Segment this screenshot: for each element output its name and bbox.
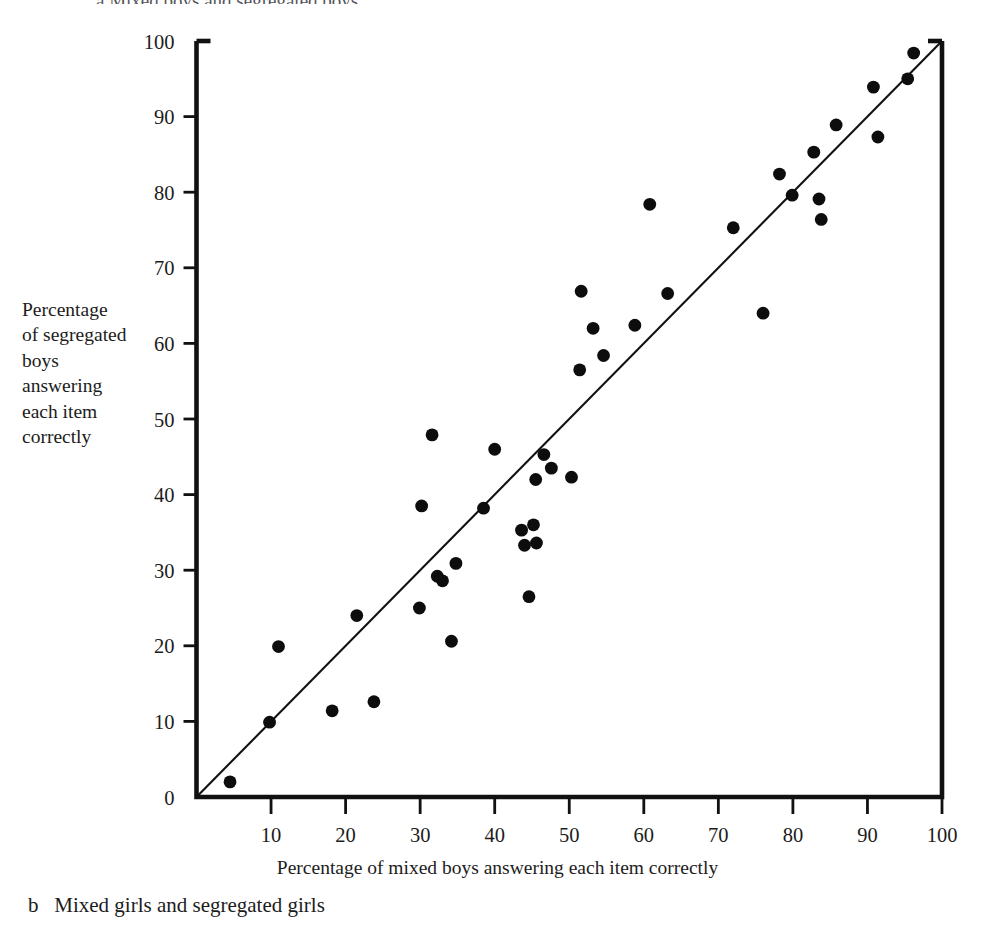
x-tick-label: 80 [783, 824, 804, 846]
y-tick-label: 50 [154, 409, 175, 431]
y-tick-label: 60 [154, 333, 175, 355]
y-tick-label: 0 [164, 787, 174, 809]
y-tick-label: 10 [154, 711, 175, 733]
y-tick-label: 30 [154, 560, 175, 582]
identity-reference-line [197, 41, 943, 797]
data-point [518, 539, 531, 552]
data-point [575, 285, 588, 298]
data-point [807, 146, 820, 159]
reference-line-layer [197, 41, 943, 797]
x-tick-label: 90 [857, 824, 878, 846]
data-point [643, 198, 656, 211]
data-point [477, 502, 490, 515]
data-point [415, 500, 428, 513]
y-tick-label: 100 [144, 31, 175, 53]
x-tick-label: 100 [927, 824, 958, 846]
data-point [773, 168, 786, 181]
data-point [450, 557, 463, 570]
data-point [786, 189, 799, 202]
data-point [413, 602, 426, 615]
data-point [907, 47, 920, 60]
x-tick-label: 40 [484, 824, 505, 846]
data-point [565, 471, 578, 484]
data-point [436, 574, 449, 587]
data-point [445, 635, 458, 648]
data-point [488, 443, 501, 456]
data-point [815, 213, 828, 226]
y-axis-label: Percentage of segregated boys answering … [22, 297, 154, 449]
data-point [727, 221, 740, 234]
data-point [263, 716, 276, 729]
data-point [529, 473, 542, 486]
data-point [527, 518, 540, 531]
data-point [757, 307, 770, 320]
data-point [661, 287, 674, 300]
data-point [813, 193, 826, 206]
data-point [867, 81, 880, 94]
data-point [530, 537, 543, 550]
data-point [545, 462, 558, 475]
x-tick-label: 30 [410, 824, 431, 846]
data-point [426, 428, 439, 441]
data-point [515, 524, 528, 537]
data-point [830, 119, 843, 132]
x-tick-label: 20 [335, 824, 356, 846]
y-tick-label: 90 [154, 106, 175, 128]
data-point [224, 775, 237, 788]
data-point [523, 590, 536, 603]
data-point [871, 131, 884, 144]
data-point [326, 704, 339, 717]
y-tick-label: 20 [154, 635, 175, 657]
data-point [350, 609, 363, 622]
y-tick-label: 40 [154, 484, 175, 506]
data-point [573, 363, 586, 376]
data-point [272, 640, 285, 653]
data-point [538, 448, 551, 461]
plot-canvas: 0102030405060708090100102030405060708090… [0, 0, 985, 925]
data-point [368, 695, 381, 708]
data-point [597, 349, 610, 362]
y-tick-label: 80 [154, 182, 175, 204]
data-point [901, 72, 914, 85]
scatter-plot: 0102030405060708090100102030405060708090… [0, 0, 985, 925]
x-tick-label: 70 [708, 824, 729, 846]
y-tick-label: 70 [154, 257, 175, 279]
x-axis-label: Percentage of mixed boys answering each … [0, 857, 985, 879]
data-point [587, 322, 600, 335]
x-tick-label: 10 [261, 824, 282, 846]
x-tick-label: 60 [634, 824, 655, 846]
figure-bottom-caption: b Mixed girls and segregated girls [28, 893, 325, 918]
x-tick-label: 50 [559, 824, 580, 846]
data-point [628, 319, 641, 332]
